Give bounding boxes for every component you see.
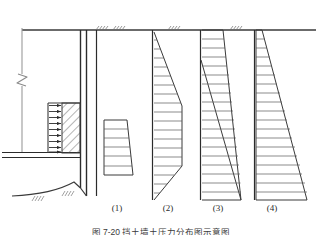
diagram-1-hatch <box>104 129 132 166</box>
earth-pressure-figure <box>0 0 322 235</box>
earth-pressure-block <box>48 103 80 153</box>
pressure-diagram-4 <box>255 30 308 200</box>
diagram-label-3: (3) <box>208 203 228 213</box>
diagram-4-hatch <box>256 39 307 192</box>
pressure-diagram-2 <box>153 30 183 200</box>
pressure-diagram-1 <box>97 30 134 196</box>
pressure-load-arrows <box>49 106 61 153</box>
diagram-2-hatch <box>154 40 182 193</box>
foundation-support-hatch <box>32 191 74 201</box>
figure-caption: 图 7-20 挡土墙土压力分布图示意图 <box>0 227 322 235</box>
diagram-label-1: (1) <box>107 203 127 213</box>
pressure-diagram-3 <box>201 30 242 200</box>
diagram-label-2: (2) <box>158 203 178 213</box>
retaining-wall-stem <box>81 30 87 196</box>
wall-base-curve <box>12 182 87 196</box>
break-symbol-icon <box>17 74 27 86</box>
diagram-3-hatch <box>202 39 241 192</box>
diagram-label-4: (4) <box>262 203 282 213</box>
